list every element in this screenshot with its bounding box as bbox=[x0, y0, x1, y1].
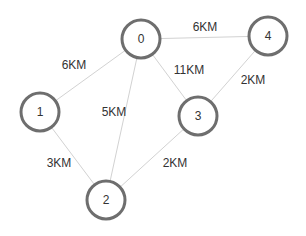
edge-label-4-3: 2KM bbox=[241, 73, 266, 87]
node-label: 2 bbox=[103, 193, 110, 207]
edge-0-2 bbox=[106, 39, 141, 200]
node-label: 0 bbox=[138, 32, 145, 46]
node-label: 4 bbox=[265, 29, 272, 43]
node-4[interactable]: 4 bbox=[249, 17, 287, 55]
graph-diagram: 6KM6KM5KM11KM2KM3KM2KM 01234 bbox=[0, 0, 306, 236]
edge-label-3-2: 2KM bbox=[163, 156, 188, 170]
node-1[interactable]: 1 bbox=[21, 93, 59, 131]
edge-label-0-3: 11KM bbox=[174, 63, 204, 77]
node-label: 3 bbox=[195, 109, 202, 123]
node-3[interactable]: 3 bbox=[179, 97, 217, 135]
edge-label-0-1: 6KM bbox=[62, 58, 87, 72]
edge-label-0-4: 6KM bbox=[193, 20, 218, 34]
edge-label-1-2: 3KM bbox=[47, 156, 72, 170]
edge-label-0-2: 5KM bbox=[102, 105, 127, 119]
nodes-layer: 01234 bbox=[21, 17, 287, 219]
node-label: 1 bbox=[37, 105, 44, 119]
node-0[interactable]: 0 bbox=[122, 20, 160, 58]
node-2[interactable]: 2 bbox=[87, 181, 125, 219]
